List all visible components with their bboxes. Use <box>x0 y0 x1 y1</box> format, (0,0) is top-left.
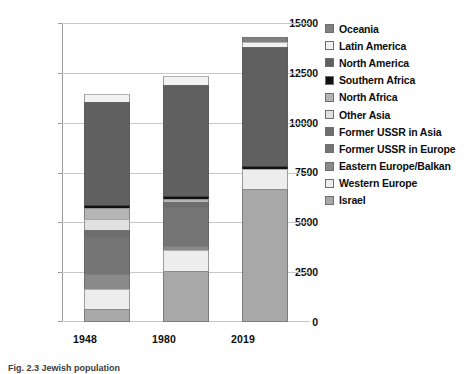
legend-item[interactable]: Other Asia <box>325 106 471 123</box>
bar-segment[interactable] <box>242 189 288 322</box>
legend-item-label: Eastern Europe/Balkan <box>339 160 451 172</box>
legend-item[interactable]: Eastern Europe/Balkan <box>325 158 471 175</box>
legend-swatch-icon <box>325 41 334 50</box>
legend-item-label: Former USSR in Asia <box>339 126 441 138</box>
tick-2500 <box>58 272 62 273</box>
chart-legend: OceaniaLatin AmericaNorth AmericaSouther… <box>325 20 471 209</box>
bar-1980[interactable] <box>163 76 209 322</box>
tick-10000 <box>58 123 62 124</box>
legend-item-label: Other Asia <box>339 109 390 121</box>
legend-item[interactable]: North Africa <box>325 89 471 106</box>
x-axis-label-1980: 1980 <box>134 333 194 345</box>
legend-swatch-icon <box>325 162 334 171</box>
legend-item-label: North Africa <box>339 91 397 103</box>
tick-5000 <box>58 222 62 223</box>
bar-segment[interactable] <box>84 237 130 275</box>
bar-segment[interactable] <box>84 219 130 230</box>
x-axis-label-2019: 2019 <box>213 333 273 345</box>
legend-swatch-icon <box>325 93 334 102</box>
bar-segment[interactable] <box>163 250 209 272</box>
legend-item-label: North America <box>339 57 409 69</box>
bar-segment[interactable] <box>163 271 209 322</box>
bar-segment[interactable] <box>84 208 130 219</box>
bar-segment[interactable] <box>84 289 130 309</box>
legend-swatch-icon <box>325 144 334 153</box>
legend-swatch-icon <box>325 76 334 85</box>
legend-item-label: Southern Africa <box>339 74 415 86</box>
bar-segment[interactable] <box>242 47 288 166</box>
bar-segment[interactable] <box>84 94 130 102</box>
bar-2019[interactable] <box>242 37 288 322</box>
bar-segment[interactable] <box>84 309 130 322</box>
legend-swatch-icon <box>325 58 334 67</box>
legend-item-label: Oceania <box>339 23 379 35</box>
bar-segment[interactable] <box>242 169 288 189</box>
legend-item[interactable]: Former USSR in Europe <box>325 140 471 157</box>
x-axis-label-1948: 1948 <box>55 333 115 345</box>
legend-item[interactable]: Israel <box>325 192 471 209</box>
legend-item-label: Latin America <box>339 40 406 52</box>
legend-swatch-icon <box>325 127 334 136</box>
legend-swatch-icon <box>325 24 334 33</box>
legend-item[interactable]: Southern Africa <box>325 72 471 89</box>
legend-item[interactable]: Western Europe <box>325 175 471 192</box>
stacked-bar-chart-figure: 15000 12500 10000 7500 5000 2500 0 <box>0 0 471 374</box>
plot-wrapper: 15000 12500 10000 7500 5000 2500 0 <box>0 0 318 374</box>
bar-segment[interactable] <box>84 230 130 237</box>
legend-item[interactable]: Latin America <box>325 37 471 54</box>
legend-swatch-icon <box>325 179 334 188</box>
bar-segment[interactable] <box>163 76 209 85</box>
gridline-15000 <box>62 23 310 24</box>
bar-segment[interactable] <box>84 274 130 289</box>
bar-segment[interactable] <box>163 207 209 246</box>
bar-1948[interactable] <box>84 94 130 322</box>
legend-swatch-icon <box>325 110 334 119</box>
legend-item[interactable]: North America <box>325 54 471 71</box>
bar-segment[interactable] <box>84 102 130 205</box>
tick-0 <box>58 321 62 322</box>
legend-item[interactable]: Oceania <box>325 20 471 37</box>
legend-item-label: Former USSR in Europe <box>339 143 455 155</box>
legend-item[interactable]: Former USSR in Asia <box>325 123 471 140</box>
tick-15000 <box>58 23 62 24</box>
legend-item-label: Israel <box>339 194 366 206</box>
plot-area <box>62 23 310 322</box>
bar-segment[interactable] <box>163 85 209 196</box>
legend-swatch-icon <box>325 196 334 205</box>
figure-caption: Fig. 2.3 Jewish population <box>8 363 308 374</box>
legend-item-label: Western Europe <box>339 177 417 189</box>
tick-12500 <box>58 73 62 74</box>
tick-7500 <box>58 173 62 174</box>
